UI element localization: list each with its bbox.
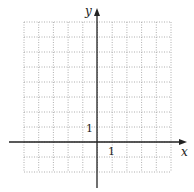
x-tick-label-1: 1	[108, 145, 115, 158]
x-axis	[9, 139, 187, 145]
y-axis-arrow-icon	[94, 8, 100, 16]
y-axis-label: y	[84, 4, 92, 18]
y-axis	[94, 8, 100, 188]
x-axis-label: x	[181, 145, 188, 159]
coordinate-plane: y x 1 1	[0, 0, 194, 192]
y-tick-label-1: 1	[86, 122, 93, 135]
